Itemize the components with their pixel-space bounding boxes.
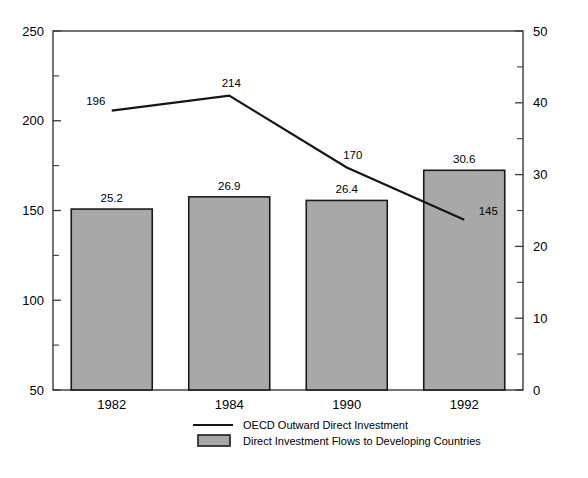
- category-label: 1982: [97, 397, 126, 412]
- right-axis-tick-label: 50: [533, 24, 547, 39]
- right-axis-tick-label: 10: [533, 311, 547, 326]
- line-value-label: 170: [343, 149, 362, 161]
- legend-item-label: OECD Outward Direct Investment: [243, 419, 408, 431]
- line-value-label: 214: [222, 77, 242, 89]
- left-axis-tick-label: 250: [22, 24, 44, 39]
- left-axis-tick-label: 150: [22, 203, 44, 218]
- left-axis-tick-label: 200: [22, 113, 44, 128]
- line-value-label: 196: [86, 95, 105, 107]
- right-axis-tick-label: 20: [533, 239, 547, 254]
- right-axis-tick-label: 0: [533, 383, 540, 398]
- line-value-label: 145: [479, 205, 498, 217]
- left-axis-tick-label: 50: [30, 383, 44, 398]
- right-axis-tick-label: 40: [533, 95, 547, 110]
- bar: [424, 170, 505, 390]
- right-axis-tick-label: 30: [533, 167, 547, 182]
- dual-axis-bar-line-chart: 50100150200250 01020304050 25.226.926.43…: [0, 0, 588, 478]
- bar-value-label: 26.9: [218, 180, 240, 192]
- left-axis-tick-label: 100: [22, 293, 44, 308]
- bar-value-label: 26.4: [336, 183, 359, 195]
- bar: [189, 197, 270, 390]
- legend-item-label: Direct Investment Flows to Developing Co…: [243, 435, 481, 447]
- bar: [71, 209, 152, 390]
- legend-box-swatch: [198, 435, 230, 446]
- category-label: 1984: [215, 397, 244, 412]
- bar-value-label: 25.2: [101, 192, 123, 204]
- category-label: 1990: [332, 397, 361, 412]
- category-label: 1992: [450, 397, 479, 412]
- bar: [306, 200, 387, 390]
- chart-container: 50100150200250 01020304050 25.226.926.43…: [0, 0, 588, 478]
- bar-value-label: 30.6: [453, 153, 475, 165]
